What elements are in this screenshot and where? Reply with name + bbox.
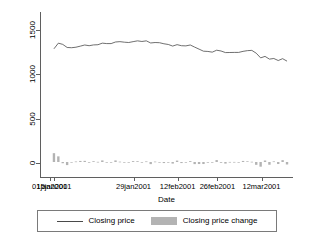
- bar: [176, 161, 178, 162]
- x-axis-tick-label: 12mar2001: [243, 183, 281, 191]
- plot-area: 050010001500 01jan200115jan200129jan2001…: [40, 12, 293, 178]
- bar: [154, 162, 156, 163]
- legend-label-closing-price-change: Closing price change: [183, 217, 258, 225]
- bar: [150, 162, 152, 164]
- x-axis-tick-label: 29jan2001: [116, 183, 151, 191]
- bar: [92, 161, 94, 162]
- bar: [211, 162, 213, 163]
- x-axis-tick-label: 15jan2001: [36, 183, 71, 191]
- bar: [136, 161, 138, 162]
- bar: [53, 153, 55, 162]
- bar-series-closing-price-change: [53, 153, 288, 166]
- x-axis-tick: [262, 177, 263, 181]
- bar: [132, 161, 134, 162]
- x-axis-tick-label: 12feb2001: [160, 183, 195, 191]
- bar: [286, 162, 288, 164]
- bar: [185, 162, 187, 163]
- bar: [163, 162, 165, 163]
- bar: [141, 162, 143, 163]
- bar: [119, 162, 121, 163]
- x-axis-tick-label: 26feb2001: [200, 183, 235, 191]
- bar: [193, 162, 195, 164]
- bar: [264, 161, 266, 163]
- bar: [277, 162, 279, 164]
- x-axis-tick: [134, 177, 135, 181]
- series-layer: [41, 12, 293, 177]
- y-axis-tick-label: 0: [29, 161, 37, 165]
- legend-entry-closing-price-change[interactable]: Closing price change: [151, 217, 258, 225]
- bar: [158, 162, 160, 163]
- bar: [189, 161, 191, 162]
- bar: [84, 161, 86, 162]
- y-axis-tick-label: 500: [29, 112, 37, 125]
- bar: [259, 162, 261, 167]
- bar: [207, 162, 209, 163]
- plot-inner: [41, 12, 293, 177]
- bar: [224, 162, 226, 164]
- bar: [106, 162, 108, 163]
- line-series-closing-price: [54, 41, 287, 61]
- bar: [75, 161, 77, 162]
- bar: [229, 162, 231, 163]
- bar: [101, 160, 103, 162]
- bar: [281, 160, 283, 162]
- bar: [66, 162, 68, 165]
- bar: [145, 161, 147, 162]
- bar: [233, 162, 235, 163]
- y-axis-tick-label: 1000: [29, 65, 37, 83]
- legend-label-closing-price: Closing price: [89, 217, 135, 225]
- bar: [237, 162, 239, 163]
- bar: [246, 161, 248, 162]
- bar: [215, 160, 217, 162]
- bar: [123, 162, 125, 163]
- bar: [114, 160, 116, 162]
- bar: [79, 161, 81, 162]
- chart-canvas: 050010001500 01jan200115jan200129jan2001…: [0, 0, 313, 245]
- bar: [273, 161, 275, 162]
- bar: [220, 162, 222, 163]
- x-axis-tick: [54, 177, 55, 181]
- bar: [172, 162, 174, 164]
- bar: [255, 162, 257, 165]
- x-axis-title: Date: [40, 196, 293, 204]
- bar: [57, 156, 59, 162]
- bar: [128, 162, 130, 163]
- x-axis-tick: [217, 177, 218, 181]
- bar: [251, 162, 253, 163]
- bar: [202, 162, 204, 164]
- bar: [97, 162, 99, 163]
- bar: [110, 162, 112, 163]
- legend-entry-closing-price[interactable]: Closing price: [57, 217, 135, 225]
- legend-line-key-icon: [57, 221, 83, 222]
- bar: [198, 162, 200, 164]
- x-axis-tick: [50, 177, 51, 181]
- bar: [88, 162, 90, 163]
- bar: [180, 162, 182, 163]
- x-axis-tick: [178, 177, 179, 181]
- bar: [268, 162, 270, 165]
- bar: [62, 162, 64, 163]
- bar: [242, 161, 244, 162]
- y-axis-tick-label: 1500: [29, 21, 37, 39]
- chart-legend: Closing price Closing price change: [37, 210, 277, 232]
- bar: [70, 162, 72, 163]
- legend-swatch-key-icon: [151, 217, 177, 225]
- bar: [167, 162, 169, 163]
